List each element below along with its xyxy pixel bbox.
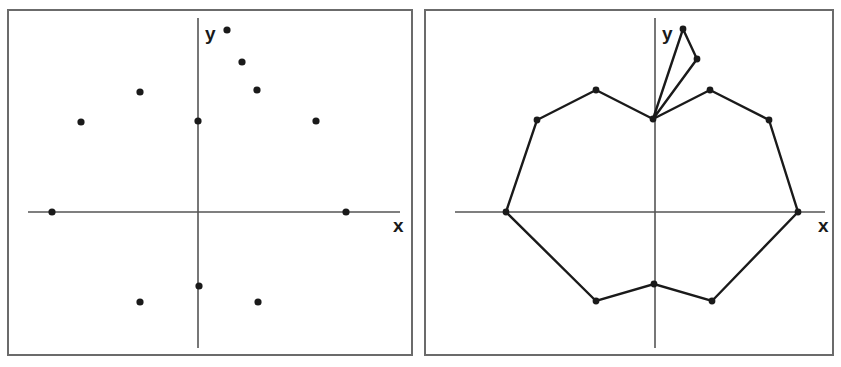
data-point [709, 298, 716, 305]
data-point [651, 281, 658, 288]
data-point [534, 117, 541, 124]
data-point [223, 26, 230, 33]
data-point [312, 117, 319, 124]
data-point [766, 117, 773, 124]
data-point [593, 87, 600, 94]
data-point [195, 282, 202, 289]
data-point [136, 88, 143, 95]
data-point [194, 117, 201, 124]
data-point [593, 298, 600, 305]
data-point [253, 86, 260, 93]
data-point [707, 87, 714, 94]
left-panel-y-axis-label: y [205, 23, 216, 44]
left-panel-x-axis-label: x [393, 215, 404, 236]
data-point [77, 118, 84, 125]
data-point [680, 26, 687, 33]
figure-canvas: x y x y [0, 0, 841, 367]
data-point [503, 209, 510, 216]
data-point [48, 208, 55, 215]
data-point [238, 58, 245, 65]
data-point [254, 298, 261, 305]
data-point [342, 208, 349, 215]
data-point [795, 209, 802, 216]
data-point [694, 56, 701, 63]
figure-background [0, 0, 841, 367]
data-point [650, 116, 657, 123]
right-panel-y-axis-label: y [662, 23, 673, 44]
right-panel-x-axis-label: x [818, 215, 829, 236]
data-point [136, 298, 143, 305]
